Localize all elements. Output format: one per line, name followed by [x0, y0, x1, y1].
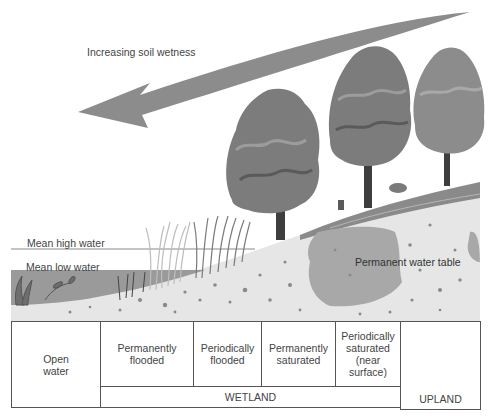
tree-icon [414, 48, 485, 186]
mean-high-water-label: Mean high water [27, 237, 105, 249]
zone-permanently-flooded: Permanently flooded [100, 321, 194, 387]
arrow-label: Increasing soil wetness [87, 46, 196, 58]
mean-low-water-label: Mean low water [26, 261, 100, 273]
water-table-label: Permanent water table [355, 256, 461, 268]
zone-periodically-flooded: Periodically flooded [193, 321, 262, 387]
group-upland: UPLAND [400, 321, 481, 410]
zone-periodically-saturated: Periodically saturated (near surface) [335, 321, 401, 387]
group-wetland: WETLAND [100, 386, 401, 408]
zone-permanently-saturated: Permanently saturated [261, 321, 336, 387]
zone-open-water: Open water [11, 321, 101, 408]
tree-icon [226, 89, 319, 240]
